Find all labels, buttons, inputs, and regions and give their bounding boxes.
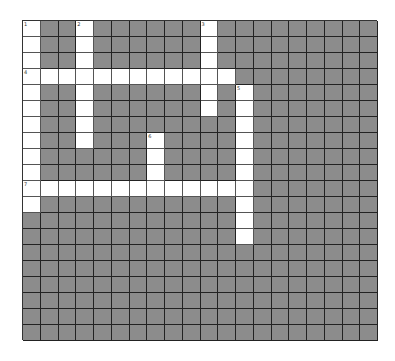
crossword-block	[41, 133, 59, 149]
crossword-block	[59, 133, 77, 149]
crossword-block	[236, 69, 254, 85]
crossword-block	[325, 133, 343, 149]
crossword-block	[23, 213, 41, 229]
crossword-cell[interactable]	[76, 117, 94, 133]
crossword-block	[307, 37, 325, 53]
crossword-block	[94, 261, 112, 277]
crossword-block	[201, 309, 219, 325]
crossword-cell[interactable]	[201, 85, 219, 101]
crossword-block	[183, 277, 201, 293]
crossword-block	[254, 37, 272, 53]
crossword-cell[interactable]	[201, 53, 219, 69]
crossword-block	[325, 149, 343, 165]
crossword-cell[interactable]	[183, 69, 201, 85]
crossword-cell[interactable]	[41, 181, 59, 197]
crossword-block	[254, 165, 272, 181]
crossword-cell[interactable]	[236, 213, 254, 229]
crossword-block	[130, 261, 148, 277]
crossword-cell[interactable]	[59, 181, 77, 197]
crossword-cell[interactable]	[23, 53, 41, 69]
crossword-cell[interactable]	[76, 85, 94, 101]
crossword-cell[interactable]	[23, 37, 41, 53]
crossword-cell[interactable]	[165, 181, 183, 197]
crossword-cell[interactable]	[76, 69, 94, 85]
crossword-cell[interactable]	[165, 69, 183, 85]
crossword-cell[interactable]: 6	[147, 133, 165, 149]
crossword-cell[interactable]	[236, 197, 254, 213]
crossword-cell[interactable]	[147, 69, 165, 85]
crossword-cell[interactable]	[147, 181, 165, 197]
crossword-cell[interactable]	[130, 69, 148, 85]
crossword-cell[interactable]	[94, 181, 112, 197]
crossword-cell[interactable]	[76, 53, 94, 69]
crossword-block	[183, 21, 201, 37]
crossword-cell[interactable]	[76, 181, 94, 197]
crossword-block	[130, 213, 148, 229]
crossword-block	[343, 181, 361, 197]
crossword-cell[interactable]	[236, 229, 254, 245]
crossword-block	[289, 21, 307, 37]
crossword-cell[interactable]	[218, 69, 236, 85]
crossword-block	[76, 309, 94, 325]
crossword-cell[interactable]	[76, 37, 94, 53]
crossword-cell[interactable]	[236, 181, 254, 197]
crossword-cell[interactable]	[112, 181, 130, 197]
crossword-cell[interactable]	[236, 101, 254, 117]
crossword-cell[interactable]: 4	[23, 69, 41, 85]
crossword-cell[interactable]	[147, 149, 165, 165]
crossword-block	[325, 261, 343, 277]
crossword-cell[interactable]	[23, 85, 41, 101]
crossword-cell[interactable]	[201, 37, 219, 53]
crossword-block	[289, 117, 307, 133]
crossword-cell[interactable]	[59, 69, 77, 85]
crossword-block	[307, 165, 325, 181]
crossword-block	[272, 245, 290, 261]
crossword-cell[interactable]	[183, 181, 201, 197]
crossword-cell[interactable]: 2	[76, 21, 94, 37]
crossword-cell[interactable]	[130, 181, 148, 197]
crossword-block	[165, 277, 183, 293]
crossword-cell[interactable]: 3	[201, 21, 219, 37]
crossword-cell[interactable]	[112, 69, 130, 85]
crossword-block	[147, 37, 165, 53]
crossword-cell[interactable]	[236, 133, 254, 149]
crossword-block	[218, 53, 236, 69]
crossword-block	[272, 117, 290, 133]
crossword-block	[76, 245, 94, 261]
crossword-cell[interactable]	[147, 165, 165, 181]
crossword-cell[interactable]	[23, 197, 41, 213]
crossword-cell[interactable]	[23, 149, 41, 165]
crossword-cell[interactable]	[41, 69, 59, 85]
crossword-block	[165, 21, 183, 37]
crossword-cell[interactable]: 1	[23, 21, 41, 37]
crossword-cell[interactable]	[23, 101, 41, 117]
crossword-block	[201, 293, 219, 309]
crossword-cell[interactable]	[23, 133, 41, 149]
clue-number: 5	[237, 85, 240, 91]
crossword-cell[interactable]	[218, 181, 236, 197]
crossword-block	[272, 53, 290, 69]
crossword-block	[130, 309, 148, 325]
crossword-cell[interactable]	[201, 101, 219, 117]
crossword-block	[112, 21, 130, 37]
crossword-grid: 1234567	[22, 20, 377, 340]
crossword-cell[interactable]: 5	[236, 85, 254, 101]
crossword-cell[interactable]	[94, 69, 112, 85]
crossword-cell[interactable]	[236, 117, 254, 133]
crossword-cell[interactable]	[23, 165, 41, 181]
crossword-cell[interactable]	[76, 133, 94, 149]
crossword-cell[interactable]: 7	[23, 181, 41, 197]
crossword-block	[254, 181, 272, 197]
crossword-cell[interactable]	[236, 165, 254, 181]
crossword-block	[343, 213, 361, 229]
crossword-cell[interactable]	[23, 117, 41, 133]
crossword-block	[343, 85, 361, 101]
crossword-block	[112, 293, 130, 309]
crossword-cell[interactable]	[236, 149, 254, 165]
crossword-block	[147, 325, 165, 341]
crossword-block	[360, 229, 378, 245]
crossword-block	[254, 197, 272, 213]
crossword-cell[interactable]	[201, 181, 219, 197]
crossword-cell[interactable]	[201, 69, 219, 85]
crossword-cell[interactable]	[76, 101, 94, 117]
